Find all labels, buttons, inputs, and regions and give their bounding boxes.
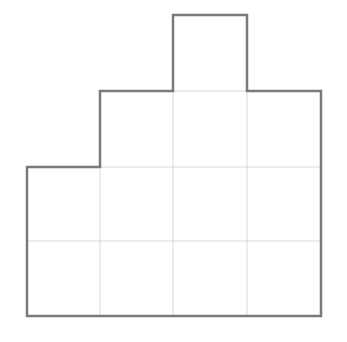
- polyomino-diagram: [0, 0, 347, 342]
- shape-outline: [27, 15, 321, 316]
- inner-grid-lines: [27, 91, 321, 316]
